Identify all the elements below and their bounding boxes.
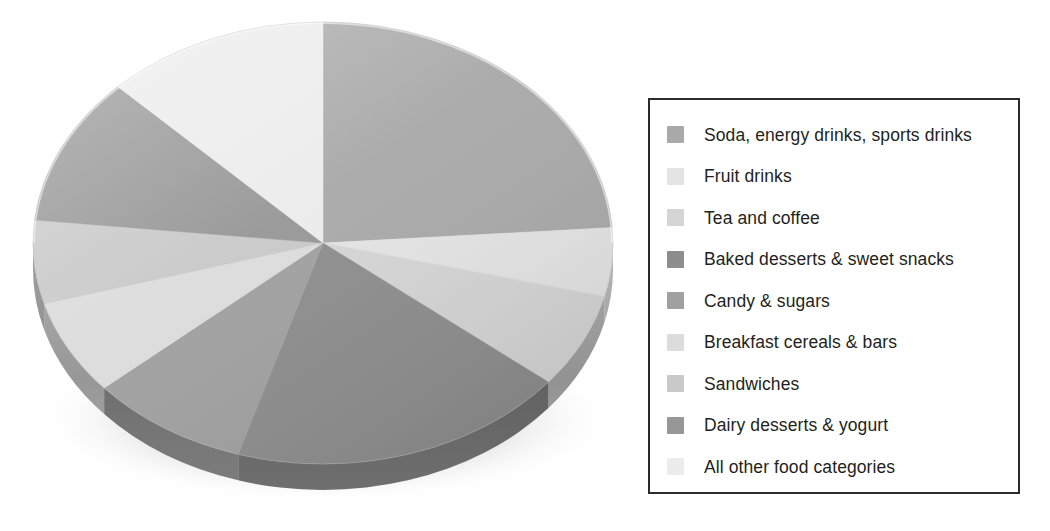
- legend-swatch-icon: [667, 458, 684, 475]
- legend-item-label: Dairy desserts & yogurt: [704, 415, 888, 435]
- legend-item[interactable]: Candy & sugars: [650, 280, 1018, 322]
- pie-chart-figure: Soda, energy drinks, sports drinks: 24%F…: [0, 0, 648, 531]
- legend-item-label: Tea and coffee: [704, 208, 820, 228]
- legend-item[interactable]: Baked desserts & sweet snacks: [650, 239, 1018, 281]
- pie-top-face: Soda, energy drinks, sports drinks: 24%F…: [33, 22, 613, 464]
- pie-slice[interactable]: Soda, energy drinks, sports drinks: 24%: [323, 22, 612, 243]
- legend-item-label: Soda, energy drinks, sports drinks: [704, 125, 972, 145]
- legend-swatch-icon: [667, 168, 684, 185]
- pie-chart-svg: Soda, energy drinks, sports drinks: 24%F…: [0, 0, 648, 531]
- legend-swatch-icon: [667, 417, 684, 434]
- legend-item-label: Breakfast cereals & bars: [704, 332, 897, 352]
- legend-swatch-icon: [667, 126, 684, 143]
- legend-list: Soda, energy drinks, sports drinksFruit …: [650, 114, 1018, 488]
- legend-item-label: Candy & sugars: [704, 291, 830, 311]
- legend-swatch-icon: [667, 292, 684, 309]
- legend-item[interactable]: Soda, energy drinks, sports drinks: [650, 114, 1018, 156]
- legend-item[interactable]: Dairy desserts & yogurt: [650, 405, 1018, 447]
- legend-item[interactable]: All other food categories: [650, 446, 1018, 488]
- chart-legend: Soda, energy drinks, sports drinksFruit …: [648, 98, 1020, 494]
- legend-item-label: Fruit drinks: [704, 166, 792, 186]
- legend-item-label: Sandwiches: [704, 374, 799, 394]
- legend-item-label: Baked desserts & sweet snacks: [704, 249, 954, 269]
- legend-item[interactable]: Tea and coffee: [650, 197, 1018, 239]
- legend-item[interactable]: Fruit drinks: [650, 156, 1018, 198]
- legend-item[interactable]: Sandwiches: [650, 363, 1018, 405]
- legend-item[interactable]: Breakfast cereals & bars: [650, 322, 1018, 364]
- legend-swatch-icon: [667, 334, 684, 351]
- legend-item-label: All other food categories: [704, 457, 895, 477]
- legend-swatch-icon: [667, 209, 684, 226]
- legend-swatch-icon: [667, 251, 684, 268]
- legend-swatch-icon: [667, 375, 684, 392]
- pie-chart-screenshot: Soda, energy drinks, sports drinks: 24%F…: [0, 0, 1050, 531]
